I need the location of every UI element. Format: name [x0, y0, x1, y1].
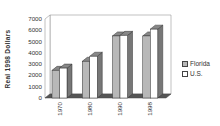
- y-tick-label: 7000: [28, 15, 42, 22]
- y-tick-label: 1000: [28, 83, 42, 90]
- legend-item-florida: Florida: [182, 59, 210, 69]
- bar: [120, 31, 133, 98]
- y-tick-label: 5000: [28, 38, 42, 45]
- x-tick-label: 1970: [56, 101, 63, 115]
- bar: [90, 52, 103, 98]
- y-axis-ticks: 01000200030004000500060007000: [28, 15, 42, 101]
- y-axis-label: Real 1998 Dollars: [4, 29, 11, 88]
- legend-label: U.S.: [190, 69, 203, 79]
- x-tick-label: 1998: [146, 101, 153, 115]
- bar: [60, 64, 73, 98]
- bar: [150, 25, 163, 98]
- y-tick-label: 3000: [28, 60, 42, 67]
- x-axis-ticks: 1970198019901998: [56, 101, 154, 115]
- x-tick-label: 1990: [116, 101, 123, 115]
- x-tick-label: 1980: [86, 101, 93, 115]
- legend: Florida U.S.: [182, 59, 210, 79]
- y-tick-label: 6000: [28, 26, 42, 33]
- legend-item-us: U.S.: [182, 69, 210, 79]
- legend-swatch-florida: [182, 61, 188, 67]
- legend-label: Florida: [190, 59, 210, 69]
- y-tick-label: 2000: [28, 71, 42, 78]
- legend-swatch-us: [182, 71, 188, 77]
- y-tick-label: 4000: [28, 49, 42, 56]
- y-tick-label: 0: [39, 94, 43, 101]
